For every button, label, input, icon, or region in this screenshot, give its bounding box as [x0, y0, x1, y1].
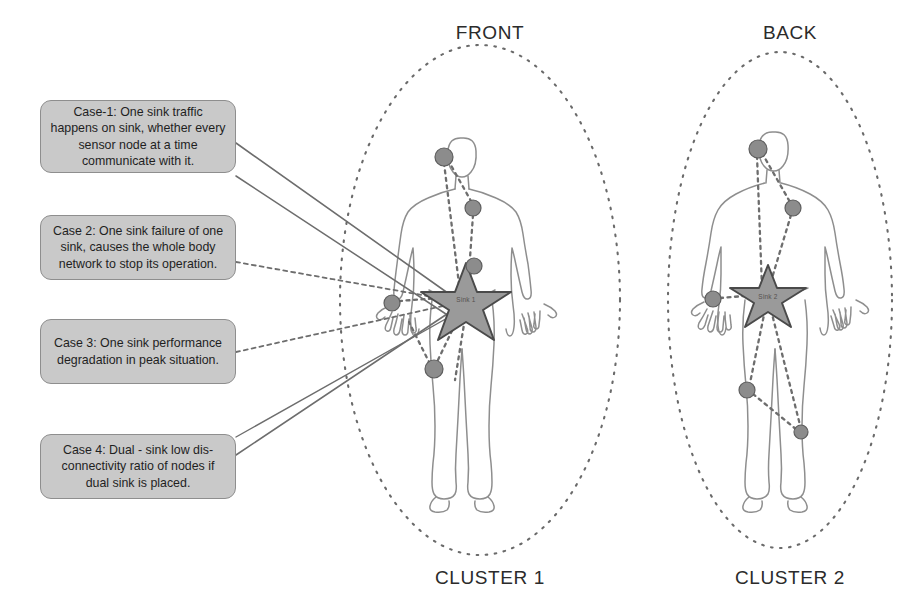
callout-case-3-text: Case 3: One sink performance degradation…: [50, 335, 226, 367]
heading-back-label: BACK: [763, 22, 817, 43]
link-shoulder-to-sink1: [470, 215, 473, 258]
back-calf-node[interactable]: [794, 425, 808, 439]
front-thigh-node[interactable]: [425, 360, 443, 378]
heading-back: BACK: [710, 22, 870, 44]
callout-case-4-text: Case 4: Dual - sink low dis-connectivity…: [50, 442, 226, 491]
back-head-node[interactable]: [749, 140, 767, 158]
heading-front: FRONT: [410, 22, 570, 44]
callout-case-2-text: Case 2: One sink failure of one sink, ca…: [50, 223, 226, 272]
link-back-head-to-sink2: [757, 156, 762, 288]
connector-case-2: [236, 262, 450, 300]
heading-front-label: FRONT: [456, 22, 524, 43]
front-wrist-node[interactable]: [384, 295, 400, 311]
link-knee-to-calf: [753, 394, 797, 430]
footer-cluster-1: CLUSTER 1: [400, 567, 580, 589]
sink-2-label: Sink 2: [758, 293, 777, 300]
callout-case-4[interactable]: Case 4: Dual - sink low dis-connectivity…: [40, 434, 236, 499]
link-head-to-chest: [448, 160, 471, 201]
sink-1-label: Sink 1: [456, 296, 475, 303]
sink-2-label-wrap: Sink 2: [744, 293, 792, 300]
callout-case-1-text: Case-1: One sink traffic happens on sink…: [50, 104, 226, 169]
back-knee-node[interactable]: [739, 382, 755, 398]
link-sink2-to-calf: [771, 310, 800, 425]
diagram-page: FRONT BACK CLUSTER 1 CLUSTER 2 Sink 1 Si…: [0, 0, 920, 616]
connector-case-4: [236, 308, 456, 455]
callout-case-2[interactable]: Case 2: One sink failure of one sink, ca…: [40, 215, 236, 280]
callout-case-1[interactable]: Case-1: One sink traffic happens on sink…: [40, 100, 236, 173]
connector-case-1: [236, 143, 452, 296]
back-body-silhouette: [692, 132, 869, 512]
back-wrist-node[interactable]: [705, 291, 721, 307]
footer-cluster-1-label: CLUSTER 1: [435, 567, 545, 588]
sink-1-label-wrap: Sink 1: [440, 296, 492, 303]
footer-cluster-2-label: CLUSTER 2: [735, 567, 845, 588]
front-head-node[interactable]: [435, 148, 453, 166]
footer-cluster-2: CLUSTER 2: [700, 567, 880, 589]
link-back-wrist-to-sink2: [720, 296, 744, 298]
connector-case-1-lower: [236, 176, 452, 318]
back-shoulder-node[interactable]: [785, 200, 801, 216]
connector-case-4-upper: [236, 312, 458, 437]
diagram-canvas: [0, 0, 920, 616]
link-head-to-sink1: [444, 163, 460, 292]
callout-case-3[interactable]: Case 3: One sink performance degradation…: [40, 319, 236, 384]
front-shoulder-node[interactable]: [465, 200, 481, 216]
front-chest-node[interactable]: [466, 258, 482, 274]
front-network-links: [399, 160, 473, 380]
